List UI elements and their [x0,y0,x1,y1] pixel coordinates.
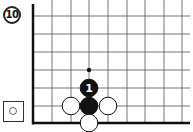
move-number: 1 [85,82,93,95]
go-board: 1 [0,0,193,132]
white-stone [80,114,98,132]
white-stone [62,97,80,115]
white-stone [99,97,117,115]
black-stone: 1 [80,79,98,97]
black-stone [80,97,98,115]
board-marks [87,68,91,72]
point-mark-icon [87,68,91,72]
